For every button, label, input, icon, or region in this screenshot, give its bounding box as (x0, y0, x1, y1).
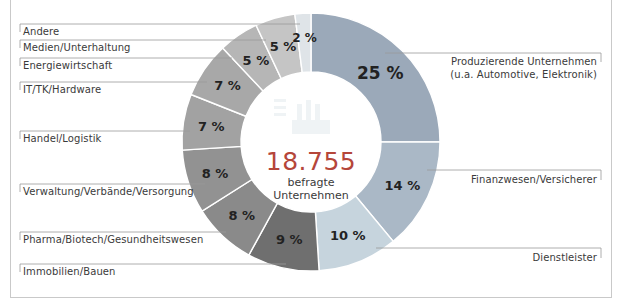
segment-value-label: 5 % (243, 53, 270, 68)
center-caption-line1: befragte (241, 176, 381, 189)
label-produzierende-line2: (u.a. Automotive, Elektronik) (450, 69, 597, 81)
label-immobilien: Immobilien/Bauen (23, 266, 116, 278)
segment-value-label: 8 % (202, 166, 229, 181)
label-finanz: Finanzwesen/Versicherer (471, 174, 597, 186)
segment-value-label: 9 % (276, 232, 303, 247)
label-produzierende-line1: Produzierende Unternehmen (451, 56, 597, 68)
segment-value-label: 14 % (385, 178, 421, 193)
center-total: 18.755 (241, 149, 381, 175)
segment-value-label: 8 % (229, 208, 256, 223)
segment-value-label: 10 % (330, 228, 366, 243)
segment-value-label: 7 % (214, 78, 241, 93)
label-andere: Andere (23, 26, 59, 38)
label-it: IT/TK/Hardware (23, 84, 101, 96)
label-dienstleister: Dienstleister (532, 252, 597, 264)
segment-value-label: 25 % (357, 63, 404, 83)
segment-value-label: 2 % (292, 31, 317, 45)
center-caption-line2: Unternehmen (241, 189, 381, 202)
center-caption: befragte Unternehmen (241, 176, 381, 202)
label-medien: Medien/Unterhaltung (23, 42, 131, 54)
label-verwaltung: Verwaltung/Verbände/Versorgung (23, 186, 194, 198)
segment-value-label: 7 % (198, 119, 225, 134)
label-handel: Handel/Logistik (23, 133, 101, 145)
label-energie: Energiewirtschaft (23, 60, 112, 72)
label-pharma: Pharma/Biotech/Gesundheitswesen (23, 234, 203, 246)
